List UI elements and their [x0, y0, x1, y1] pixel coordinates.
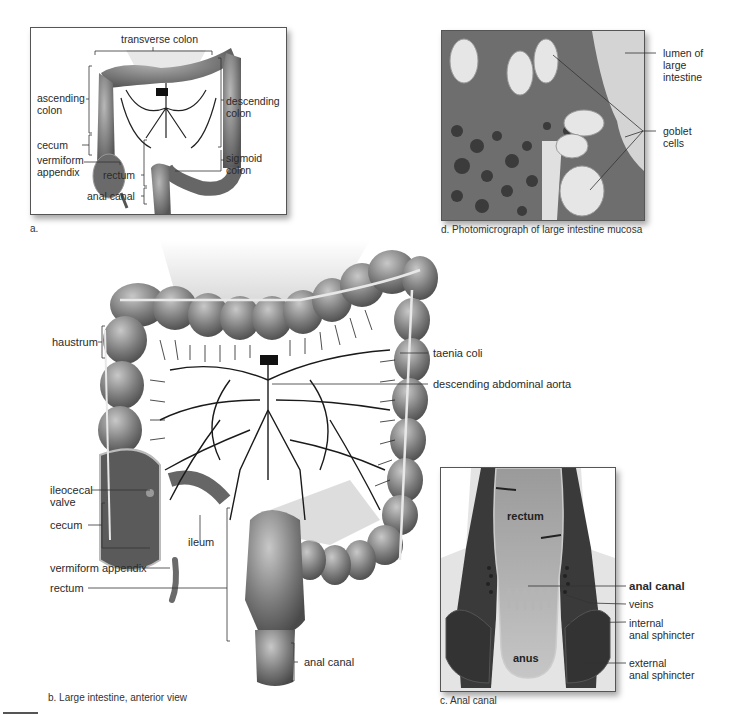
panel-c-leader-lines	[0, 0, 730, 715]
label-c-anal-canal: anal canal	[629, 580, 685, 592]
label-c-internal-sphincter-line1: internal	[629, 617, 663, 629]
footer-rule	[3, 712, 38, 714]
label-c-anus: anus	[513, 652, 539, 664]
label-c-external-sphincter-line2: anal sphincter	[629, 669, 694, 681]
label-c-internal-sphincter-line2: anal sphincter	[629, 629, 694, 641]
label-c-rectum: rectum	[507, 510, 544, 522]
caption-c: c. Anal canal	[440, 695, 497, 706]
label-c-veins: veins	[629, 598, 654, 610]
label-c-external-sphincter-line1: external	[629, 657, 666, 669]
